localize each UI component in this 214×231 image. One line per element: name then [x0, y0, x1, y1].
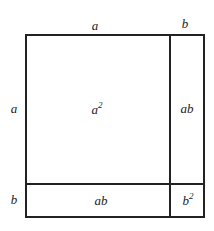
vertical-divider	[169, 34, 171, 217]
right-edge	[203, 34, 205, 217]
top-label-b: b	[182, 16, 189, 32]
top-edge	[25, 34, 205, 36]
bottom-edge	[25, 216, 205, 218]
region-ab-bottom: ab	[95, 193, 108, 209]
region-ab-right: ab	[181, 101, 194, 117]
top-label-a: a	[92, 18, 99, 34]
horizontal-divider	[25, 183, 205, 185]
region-a-squared: a2	[92, 100, 103, 117]
left-edge	[25, 34, 27, 217]
side-label-b: b	[11, 192, 18, 208]
region-b-squared: b2	[183, 191, 194, 208]
side-label-a: a	[11, 101, 18, 117]
